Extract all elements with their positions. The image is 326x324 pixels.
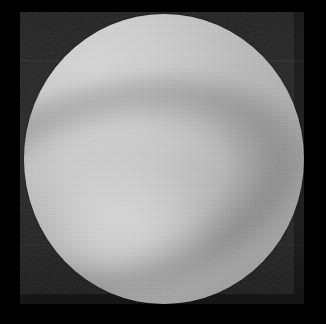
specimen-vignette xyxy=(24,14,304,304)
image-description: Monochrome circular bright object on a d… xyxy=(0,0,1,1)
bright-circular-specimen xyxy=(24,14,304,304)
image-viewport: Monochrome circular bright object on a d… xyxy=(0,0,326,324)
